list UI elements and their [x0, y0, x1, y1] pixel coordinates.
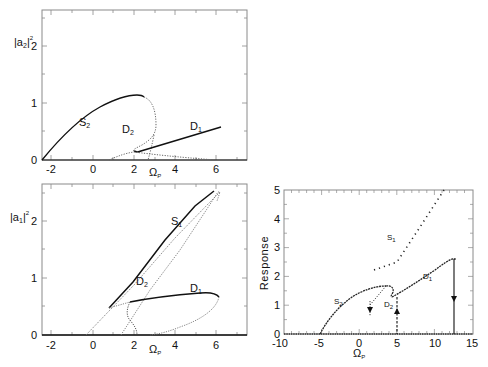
- x-axis-label: ΩP: [353, 347, 365, 360]
- y-tick-labels: 0 1 2: [31, 215, 37, 341]
- x-tick-label: 0: [90, 163, 96, 175]
- y-tick-label: 2: [274, 270, 280, 282]
- curve-D1: [134, 127, 221, 152]
- y-ticks: [284, 204, 473, 319]
- curve-D2: [386, 286, 393, 297]
- y-ticks: [42, 18, 247, 131]
- annotation-S1: S1: [387, 233, 396, 243]
- x-tick-labels: -2 0 2 4 6: [46, 339, 219, 351]
- y-axis-label: |a1|2: [10, 210, 30, 224]
- plot-right: -10 -5 0 5 10 15 0 1 2 3 4 5 Response ΩP: [258, 184, 478, 360]
- curve-S1-unstable-a: [86, 192, 220, 335]
- y-tick-label: 4: [274, 213, 280, 225]
- annotation-D1: D1: [423, 272, 433, 282]
- y-tick-labels: 0 1 2: [31, 40, 37, 166]
- x-tick-label: 0: [90, 339, 96, 351]
- y-tick-label: 2: [31, 40, 37, 52]
- x-axis-label: ΩP: [149, 166, 161, 179]
- y-tick-label: 0: [31, 154, 37, 166]
- y-tick-label: 2: [31, 215, 37, 227]
- x-tick-label: 15: [466, 337, 478, 349]
- plot-bottom-left: -2 0 2 4 6 0 1 2 |a1|2 ΩP S1 D2 D1: [10, 184, 247, 356]
- plot-frame: [42, 184, 247, 335]
- x-tick-labels: -10 -5 0 5 10 15: [272, 337, 478, 349]
- curve-S1: [374, 190, 444, 270]
- x-axis-label: ΩP: [149, 343, 161, 356]
- y-axis-label: Response: [258, 236, 270, 290]
- annotation-D1: D1: [190, 282, 202, 295]
- x-tick-label: -5: [314, 337, 324, 349]
- y-ticks: [42, 193, 247, 306]
- annotation-D2: D2: [136, 275, 148, 288]
- plot-top-left: -2 0 2 4 6 0 1 2 |a2|2 ΩP S2 D2 D1: [14, 10, 247, 179]
- curve-S2: [320, 286, 386, 334]
- arrow-down-icon: [367, 307, 373, 313]
- annotation-D1: D1: [190, 120, 202, 133]
- x-ticks: [292, 190, 465, 334]
- y-tick-label: 0: [274, 328, 280, 340]
- y-tick-label: 3: [274, 241, 280, 253]
- y-tick-label: 0: [31, 329, 37, 341]
- annotation-D2: D2: [384, 300, 394, 310]
- x-tick-label: 4: [172, 163, 178, 175]
- x-tick-label: 2: [131, 163, 137, 175]
- annotation-S1: S1: [171, 215, 182, 228]
- y-tick-label: 1: [31, 97, 37, 109]
- y-tick-label: 1: [274, 299, 280, 311]
- plot-frame: [284, 190, 473, 334]
- annotation-D2: D2: [122, 123, 134, 136]
- curve-D1-unstable: [109, 152, 216, 160]
- x-tick-label: 6: [213, 339, 219, 351]
- curve-D1-unstable: [150, 297, 219, 335]
- x-tick-labels: -2 0 2 4 6: [46, 163, 219, 175]
- annotation-S2: S2: [334, 297, 343, 307]
- arrow-up-icon: [394, 308, 400, 314]
- x-tick-label: 5: [394, 337, 400, 349]
- x-ticks: [51, 10, 237, 160]
- x-tick-label: -2: [46, 339, 56, 351]
- figure: -2 0 2 4 6 0 1 2 |a2|2 ΩP S2 D2 D1: [0, 0, 488, 367]
- y-tick-labels: 0 1 2 3 4 5: [274, 184, 280, 340]
- plot-frame: [42, 10, 247, 160]
- x-tick-label: -2: [46, 163, 56, 175]
- y-tick-label: 1: [31, 272, 37, 284]
- y-tick-label: 5: [274, 184, 280, 196]
- annotation-S2: S2: [79, 116, 90, 129]
- arrow-down-icon: [451, 296, 457, 302]
- curve-S1-unstable-b: [121, 192, 220, 335]
- x-tick-label: 10: [429, 337, 441, 349]
- x-ticks: [51, 184, 237, 335]
- x-tick-label: 2: [131, 339, 137, 351]
- x-tick-label: 4: [172, 339, 178, 351]
- x-tick-label: 6: [213, 163, 219, 175]
